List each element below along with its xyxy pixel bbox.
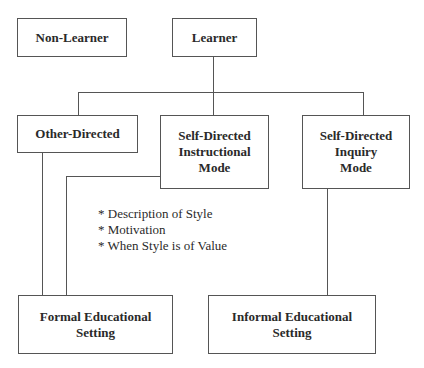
node-label-line: Instructional	[178, 144, 250, 160]
connector-to-self-directed-inquiry	[363, 92, 364, 115]
node-self-directed-instructional: Self-Directed Instructional Mode	[160, 115, 269, 189]
node-label-line: Setting	[273, 325, 312, 341]
node-learner: Learner	[172, 18, 257, 57]
node-formal-educational-setting: Formal Educational Setting	[18, 295, 173, 354]
connector-to-other-directed	[78, 92, 79, 115]
notes-list: * Description of Style * Motivation * Wh…	[98, 206, 227, 254]
node-informal-educational-setting: Informal Educational Setting	[208, 295, 376, 354]
note-item: * Motivation	[98, 222, 227, 238]
node-self-directed-inquiry: Self-Directed Inquiry Mode	[302, 115, 410, 189]
node-label: Non-Learner	[36, 30, 109, 46]
connector-to-self-directed-instructional	[213, 92, 214, 115]
connector-other-directed-to-formal	[42, 152, 43, 295]
node-label-line: Inquiry	[335, 144, 378, 160]
node-label-line: Setting	[76, 325, 115, 341]
node-label-line: Self-Directed	[178, 128, 251, 144]
node-non-learner: Non-Learner	[17, 18, 127, 57]
connector-inquiry-to-informal	[327, 188, 328, 295]
node-label-line: Self-Directed	[320, 128, 393, 144]
node-label-line: Mode	[340, 160, 372, 176]
node-other-directed: Other-Directed	[17, 115, 138, 153]
node-label-line: Mode	[199, 160, 231, 176]
node-label-line: Formal Educational	[40, 309, 152, 325]
node-label: Learner	[192, 30, 237, 46]
connector-branch-horizontal	[78, 92, 364, 93]
node-label: Other-Directed	[35, 126, 119, 142]
connector-instructional-left	[66, 176, 160, 177]
connector-learner-down	[213, 56, 214, 92]
note-item: * When Style is of Value	[98, 238, 227, 254]
node-label-line: Informal Educational	[232, 309, 352, 325]
connector-instructional-to-formal	[66, 176, 67, 295]
note-item: * Description of Style	[98, 206, 227, 222]
